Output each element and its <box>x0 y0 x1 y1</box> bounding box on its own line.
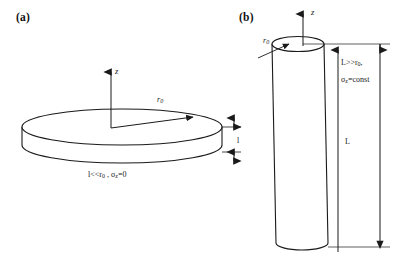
condition-a-stress-value: =0 <box>118 170 127 179</box>
condition-b-comma: , <box>361 58 363 67</box>
length-outer-arrow-down <box>376 241 383 249</box>
panel-b-cylinder-drawing <box>258 14 390 252</box>
condition-b-relation: >> <box>346 58 355 67</box>
cylinder-right-wall <box>324 44 328 243</box>
panel-a-disk-drawing <box>22 72 241 163</box>
panel-a-condition-text: l<<r0 , σz=0 <box>88 171 126 179</box>
panel-b-condition-length: L>>r0, <box>341 59 363 67</box>
panel-a-radius-subscript: 0 <box>160 98 163 104</box>
disk-bottom-arc <box>22 145 222 163</box>
panel-b-label: (b) <box>239 11 254 23</box>
cylinder-bottom-arc <box>276 243 328 250</box>
panel-a-thickness-label: l <box>237 137 239 145</box>
panel-a-z-axis-label: z <box>115 67 118 76</box>
figure-vector-layer <box>0 0 407 266</box>
panel-b-z-axis-label: z <box>311 8 314 17</box>
figure-canvas: (a) (b) z r0 l l<<r0 , σz=0 z r0 L L>>r0… <box>0 0 407 266</box>
panel-b-radius-label: r0 <box>263 37 269 45</box>
panel-b-condition-stress: σz=const <box>341 76 369 84</box>
panel-a-label: (a) <box>16 11 30 23</box>
condition-a-relation: << <box>90 170 99 179</box>
panel-a-radius-label: r0 <box>157 96 163 104</box>
panel-b-length-label: L <box>345 138 350 146</box>
condition-b-stress-value: =const <box>348 75 369 84</box>
cylinder-left-wall <box>272 44 276 243</box>
panel-b-radius-subscript: 0 <box>266 39 269 45</box>
